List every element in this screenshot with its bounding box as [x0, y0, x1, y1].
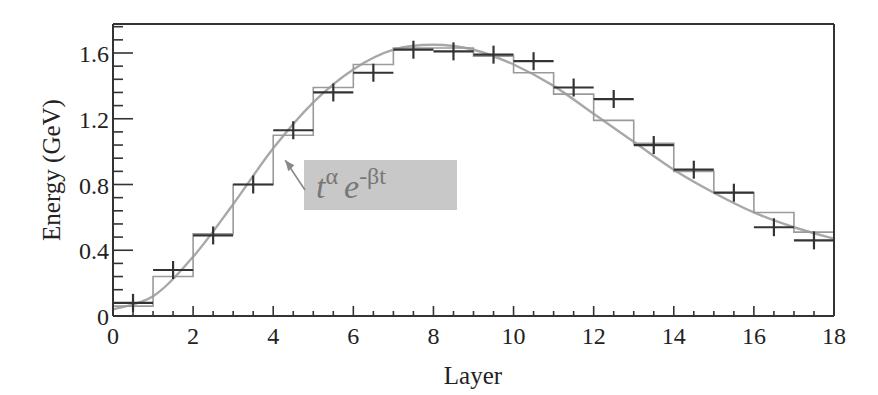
data-point	[273, 121, 313, 139]
x-tick-label: 14	[662, 323, 686, 349]
data-point	[313, 83, 353, 101]
x-tick-label: 4	[267, 323, 279, 349]
data-points	[113, 41, 834, 312]
y-tick-label: 0.8	[79, 173, 109, 199]
axes: 00.40.81.21.6024681012141618	[79, 24, 846, 349]
x-tick-label: 12	[582, 323, 606, 349]
data-point	[594, 90, 634, 108]
x-tick-label: 0	[107, 323, 119, 349]
x-tick-label: 10	[502, 323, 526, 349]
x-axis-title: Layer	[444, 362, 503, 389]
data-point	[233, 176, 273, 194]
y-tick-label: 0.4	[79, 238, 109, 264]
data-point	[193, 226, 233, 244]
arrowhead-icon	[285, 160, 294, 171]
data-point	[714, 184, 754, 202]
data-point	[393, 41, 433, 59]
data-point	[674, 161, 714, 179]
data-point	[634, 136, 674, 154]
formula-annotation: tαe-βt	[285, 160, 457, 210]
y-tick-label: 1.6	[79, 41, 109, 67]
x-tick-label: 2	[187, 323, 199, 349]
x-tick-label: 6	[347, 323, 359, 349]
histogram-steps	[113, 48, 834, 316]
y-axis-title: Energy (GeV)	[38, 99, 66, 241]
x-tick-label: 8	[427, 323, 439, 349]
x-tick-label: 16	[742, 323, 766, 349]
data-point	[754, 218, 794, 236]
x-tick-label: 18	[822, 323, 846, 349]
data-point	[794, 231, 834, 249]
y-tick-label: 1.2	[79, 107, 109, 133]
fit-curve-line	[113, 45, 834, 310]
simulation-histogram	[113, 48, 834, 316]
fit-curve	[113, 45, 834, 310]
energy-vs-layer-chart: 00.40.81.21.6024681012141618 tαe-βt Laye…	[0, 0, 878, 395]
